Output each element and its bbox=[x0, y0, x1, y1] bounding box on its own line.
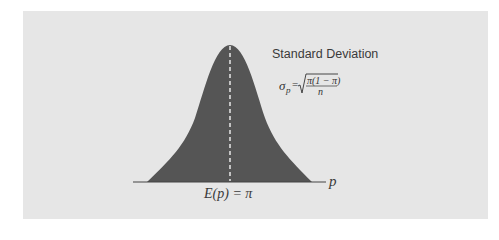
x-axis-label: p bbox=[329, 173, 337, 190]
std-dev-formula: σ p = π(1 − π) n bbox=[279, 74, 341, 97]
mean-label: E(p) = π bbox=[204, 186, 252, 202]
standard-deviation-label: Standard Deviation bbox=[272, 47, 378, 61]
formula-numerator: π(1 − π) bbox=[307, 75, 341, 87]
sigma-subscript: p bbox=[285, 85, 291, 95]
sigma-symbol: σ bbox=[279, 78, 286, 93]
equals-sign: = bbox=[292, 78, 298, 90]
formula-denominator: n bbox=[318, 86, 323, 97]
